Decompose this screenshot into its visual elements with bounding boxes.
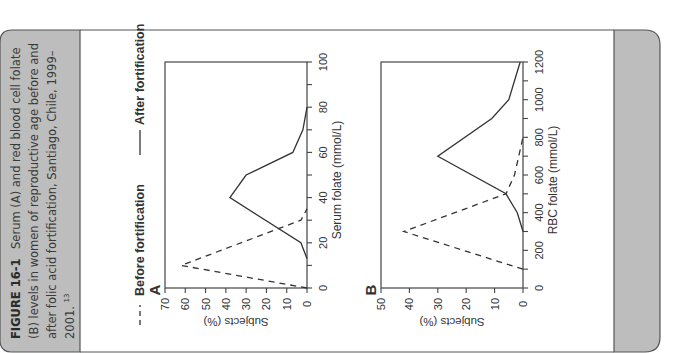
x-tick-label: 1200 [533,50,545,74]
x-tick-label: 60 [317,146,329,158]
x-tick-label: 400 [533,203,545,221]
x-tick-label: 20 [317,237,329,249]
y-tick-label: 40 [403,298,415,310]
y-tick-label: 10 [489,298,501,310]
y-tick-label: 20 [260,298,272,310]
caption-line-4: 2001. [63,306,77,339]
x-tick-label: 40 [317,191,329,203]
x-tick-label: 200 [533,241,545,259]
series-before-line [404,137,523,269]
y-tick-label: 70 [159,298,171,310]
y-tick-label: 30 [240,298,252,310]
y-tick-label: 50 [200,298,212,310]
caption-label: FIGURE 16-1 [9,259,23,339]
side-panel [614,30,660,352]
panel-label: A [146,284,163,295]
x-tick-label: 0 [317,285,329,291]
panel-label: B [362,284,379,295]
x-tick-label: 100 [317,53,329,71]
x-tick-label: 0 [533,285,545,291]
x-tick-label: 600 [533,166,545,184]
x-tick-label: 1000 [533,87,545,111]
y-tick-label: 0 [301,301,313,307]
chart-b: 01020304050020040060080010001200RBC fola… [362,50,560,328]
svg-text:FIGURE 16-1 Serum (A): FIGURE 16-1 Serum (A) and red blood cell… [9,48,23,339]
legend-after-label: After fortification [133,24,147,125]
x-axis-title: Serum folate (mmol/L) [330,121,344,240]
plot-frame [165,62,307,288]
y-tick-label: 60 [179,298,191,310]
y-tick-label: 40 [220,298,232,310]
y-tick-label: 10 [281,298,293,310]
series-after-line [438,62,523,232]
legend: Before fortification After fortification [133,24,147,325]
plot-frame [381,62,523,288]
chart-a: 010203040506070020406080100Serum folate … [146,53,344,328]
y-axis-title: Subjects (%) [419,316,484,328]
y-tick-label: 50 [375,298,387,310]
y-tick-label: 20 [460,298,472,310]
y-tick-label: 0 [517,301,529,307]
x-tick-label: 800 [533,128,545,146]
series-after-line [230,107,307,258]
series-before-line [181,209,307,288]
x-axis-title: RBC folate (mmol/L) [546,126,560,235]
caption-line-1: Serum (A) and red blood cell folate [9,48,23,249]
caption-line-3: after folic acid fortification, Santiago… [45,50,59,339]
caption-line-2: (B) levels in women of reproductive age … [27,43,41,339]
y-tick-label: 30 [432,298,444,310]
figure-page: FIGURE 16-1 Serum (A) and red blood cell… [0,0,681,353]
y-axis-title: Subjects (%) [203,316,268,328]
legend-before-label: Before fortification [133,184,147,296]
x-tick-label: 80 [317,101,329,113]
caption-superscript: 13 [63,293,71,302]
figure-svg: FIGURE 16-1 Serum (A) and red blood cell… [0,0,681,353]
